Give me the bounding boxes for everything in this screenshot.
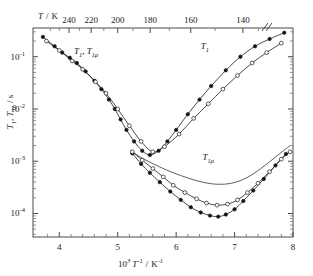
data-point-open xyxy=(206,102,210,106)
data-point-open xyxy=(250,61,254,65)
data-point-filled xyxy=(268,37,271,40)
data-point-filled xyxy=(210,84,213,87)
data-point-filled xyxy=(242,199,245,202)
data-point-filled xyxy=(283,31,286,34)
data-point-open xyxy=(236,74,240,78)
data-point-filled xyxy=(75,61,78,64)
data-point-filled xyxy=(198,98,201,101)
y-tick-exponent: -4 xyxy=(20,206,26,213)
data-point-filled xyxy=(274,164,277,167)
data-point-open xyxy=(288,150,292,154)
xlabel-sup2: -1 xyxy=(137,257,142,264)
ylabel-slash: / s xyxy=(5,94,15,105)
data-point-open xyxy=(246,191,250,195)
relaxation-time-chart: 240220200180160140 45678 10-110-210-310-… xyxy=(0,0,313,276)
data-point-filled xyxy=(239,55,242,58)
data-point-open xyxy=(205,201,209,205)
data-point-open xyxy=(177,132,181,136)
data-point-open xyxy=(192,116,196,120)
data-point-filled xyxy=(189,206,192,209)
data-point-filled xyxy=(169,190,172,193)
top-axis-title: T/K xyxy=(38,11,59,21)
data-point-filled xyxy=(186,113,189,116)
data-point-open xyxy=(116,107,120,111)
data-point-filled xyxy=(208,214,211,217)
data-point-filled xyxy=(148,171,151,174)
data-point-filled xyxy=(125,128,128,131)
data-point-open xyxy=(279,41,283,45)
data-point-filled xyxy=(224,69,227,72)
data-point-open xyxy=(226,202,230,206)
data-point-open xyxy=(221,87,225,91)
data-point-open xyxy=(151,150,155,154)
data-point-filled xyxy=(68,56,71,59)
data-point-open xyxy=(163,145,167,149)
top-tick-label: 200 xyxy=(111,15,125,25)
data-point-open xyxy=(45,39,49,43)
data-point-open xyxy=(127,124,131,128)
x-tick-label: 7 xyxy=(232,242,237,252)
data-point-open xyxy=(151,167,155,171)
data-point-open xyxy=(215,203,219,207)
data-point-filled xyxy=(139,162,142,165)
data-point-filled xyxy=(217,215,220,218)
data-point-filled xyxy=(100,87,103,90)
data-point-filled xyxy=(262,177,265,180)
xlabel-sup3: -1 xyxy=(158,257,163,264)
data-point-filled xyxy=(41,35,44,38)
data-point-open xyxy=(183,191,187,195)
data-point-filled xyxy=(233,208,236,211)
x-tick-label: 4 xyxy=(57,242,62,252)
top-axis-title-unit: K xyxy=(52,11,59,21)
top-tick-label: 160 xyxy=(184,15,198,25)
data-point-open xyxy=(268,170,272,174)
top-tick-label: 240 xyxy=(62,15,76,25)
data-point-filled xyxy=(119,118,122,121)
data-point-open xyxy=(161,175,165,179)
x-tick-label: 6 xyxy=(174,242,179,252)
data-point-filled xyxy=(199,211,202,214)
data-point-open xyxy=(140,158,144,162)
data-point-open xyxy=(171,183,175,187)
data-point-filled xyxy=(157,149,160,152)
data-point-filled xyxy=(252,189,255,192)
x-tick-label: 5 xyxy=(115,242,120,252)
data-point-open xyxy=(236,198,240,202)
figure-container: 240220200180160140 45678 10-110-210-310-… xyxy=(0,0,313,276)
y-tick-exponent: -3 xyxy=(20,154,25,161)
data-point-filled xyxy=(253,45,256,48)
top-tick-label: 220 xyxy=(84,15,98,25)
data-point-filled xyxy=(141,149,144,152)
data-point-filled xyxy=(166,140,169,143)
data-point-open xyxy=(104,91,108,95)
x-tick-label: 8 xyxy=(291,242,296,252)
data-point-open xyxy=(70,59,74,63)
y-tick-exponent: -1 xyxy=(20,50,25,57)
data-point-filled xyxy=(174,128,177,131)
data-point-filled xyxy=(148,153,151,156)
data-point-filled xyxy=(158,180,161,183)
y-tick-exponent: -2 xyxy=(20,102,25,109)
svg-text:T/K: T/K xyxy=(38,11,59,21)
data-point-open xyxy=(265,51,269,55)
data-point-open xyxy=(81,67,85,71)
data-point-filled xyxy=(224,213,227,216)
data-point-open xyxy=(130,150,134,154)
data-point-open xyxy=(57,49,61,53)
data-point-open xyxy=(139,139,143,143)
data-point-filled xyxy=(179,198,182,201)
top-tick-label: 180 xyxy=(143,15,157,25)
data-point-open xyxy=(256,181,260,185)
data-point-filled xyxy=(284,152,287,155)
top-tick-label: 140 xyxy=(236,15,250,25)
data-point-filled xyxy=(53,45,56,48)
data-point-open xyxy=(195,197,199,201)
data-point-filled xyxy=(132,140,135,143)
data-point-open xyxy=(94,80,98,84)
data-point-open xyxy=(279,157,283,161)
data-point-filled xyxy=(107,98,110,101)
